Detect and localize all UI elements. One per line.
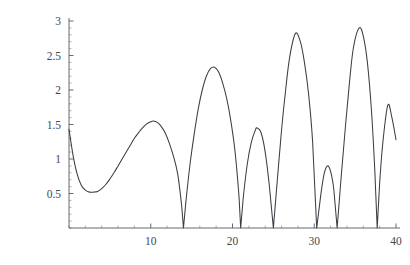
chart-canvas: 0.511.522.53 10203040: [0, 0, 410, 265]
y-tick-label: 3: [55, 15, 61, 27]
y-tick-label: 0.5: [47, 188, 62, 200]
x-tick-label: 30: [309, 235, 321, 247]
x-axis-tick-labels: 10203040: [145, 235, 402, 247]
y-axis-major-ticks: [69, 21, 74, 194]
data-series-curve: [69, 27, 396, 228]
x-tick-label: 40: [390, 235, 402, 247]
y-tick-label: 2.5: [47, 50, 62, 62]
y-tick-label: 1.5: [47, 119, 62, 131]
y-axis-tick-labels: 0.511.522.53: [47, 15, 62, 200]
x-tick-label: 20: [227, 235, 239, 247]
x-tick-label: 10: [145, 235, 157, 247]
y-tick-label: 2: [55, 84, 61, 96]
plot-figure: 0.511.522.53 10203040: [0, 0, 410, 265]
y-tick-label: 1: [55, 153, 61, 165]
